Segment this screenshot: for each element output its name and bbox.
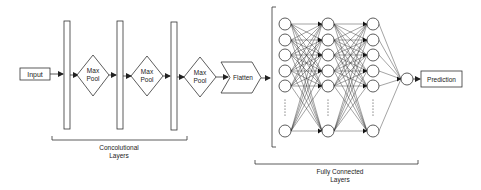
ellipsis-dot (284, 102, 285, 103)
ellipsis-dot (327, 111, 328, 112)
prediction-label: Prediction (427, 76, 456, 83)
fc-neuron (279, 80, 291, 92)
fc-neuron (279, 125, 291, 137)
maxpool-1-label-top: Max (87, 67, 100, 74)
conv-group-label-line2: Layers (109, 152, 129, 160)
flatten-node: Flatten (221, 62, 261, 93)
ellipsis-dot (372, 105, 373, 106)
ellipsis-dot (327, 108, 328, 109)
conv-group-bracket (52, 136, 187, 140)
ellipsis-dot (372, 108, 373, 109)
fc-neuron (367, 65, 379, 77)
fc-neuron (279, 18, 291, 30)
ellipsis-dot (284, 114, 285, 115)
maxpool-2-label-top: Max (141, 68, 154, 75)
fc-neuron (367, 34, 379, 46)
prediction-node: Prediction (421, 71, 462, 87)
fc-neuron (322, 18, 334, 30)
fc-bracket-left (272, 7, 276, 147)
input-node: Input (20, 68, 50, 80)
maxpool-3-label-bottom: Pool (193, 77, 207, 84)
fc-connections (291, 24, 401, 131)
maxpool-3-label-top: Max (194, 69, 207, 76)
fc-neuron (279, 49, 291, 61)
ellipsis-dot (284, 111, 285, 112)
fc-neuron (367, 80, 379, 92)
ellipsis-dot (327, 102, 328, 103)
ellipsis-dot (327, 99, 328, 100)
flatten-label: Flatten (233, 74, 253, 81)
fc-neuron (322, 34, 334, 46)
ellipsis-dot (284, 99, 285, 100)
cnn-diagram: Input Max Pool Max Pool Max Pool Flatten (0, 0, 481, 190)
fc-group-label-line1: Fully Connected (317, 168, 364, 176)
maxpool-3: Max Pool (184, 57, 216, 97)
input-label: Input (27, 71, 43, 79)
fc-neuron (367, 125, 379, 137)
ellipsis-dot (327, 105, 328, 106)
ellipsis-dot (372, 102, 373, 103)
ellipsis-dot (327, 114, 328, 115)
output-neuron (401, 73, 413, 85)
maxpool-2-label-bottom: Pool (140, 76, 154, 83)
conv-layer-3 (171, 22, 177, 130)
ellipsis-dot (284, 105, 285, 106)
maxpool-1: Max Pool (77, 55, 109, 96)
fc-neuron (279, 65, 291, 77)
conv-group-label-line1: Concolutional (99, 144, 139, 151)
maxpool-2: Max Pool (131, 56, 163, 96)
ellipsis-dot (372, 111, 373, 112)
fc-group-label-line2: Layers (330, 176, 350, 184)
fc-neuron (322, 80, 334, 92)
fc-neuron (367, 18, 379, 30)
ellipsis-dot (372, 99, 373, 100)
fc-neuron (367, 49, 379, 61)
fc-neuron (322, 125, 334, 137)
conv-layer-2 (117, 21, 123, 129)
fc-neuron (279, 34, 291, 46)
fc-group-bracket (255, 160, 418, 164)
fc-neuron (322, 49, 334, 61)
ellipsis-dot (284, 108, 285, 109)
conv-layer-1 (64, 21, 70, 129)
maxpool-1-label-bottom: Pool (86, 75, 100, 82)
ellipsis-dot (372, 114, 373, 115)
fc-neuron (322, 65, 334, 77)
